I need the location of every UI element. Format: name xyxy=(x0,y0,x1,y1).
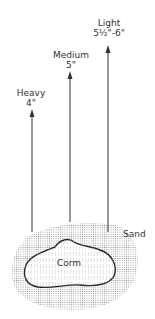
label-light: Light 5½"-6" xyxy=(93,18,125,38)
corm-label: Corm xyxy=(57,258,81,268)
planting-depth-diagram: Heavy 4" Medium 5" Light 5½"-6" Sand Cor… xyxy=(0,0,155,319)
depth-heavy: 4" xyxy=(17,98,45,108)
depth-light: 5½"-6" xyxy=(93,28,125,38)
soil-type-heavy: Heavy xyxy=(17,88,45,98)
label-medium: Medium 5" xyxy=(53,50,89,70)
depth-medium: 5" xyxy=(53,60,89,70)
soil-type-light: Light xyxy=(98,18,120,28)
diagram-svg xyxy=(0,0,155,319)
arrow-medium xyxy=(68,71,73,222)
arrow-heavy xyxy=(30,109,35,232)
arrow-light xyxy=(106,45,111,232)
label-heavy: Heavy 4" xyxy=(17,88,45,108)
sand-label: Sand xyxy=(123,229,146,239)
soil-type-medium: Medium xyxy=(53,50,89,60)
